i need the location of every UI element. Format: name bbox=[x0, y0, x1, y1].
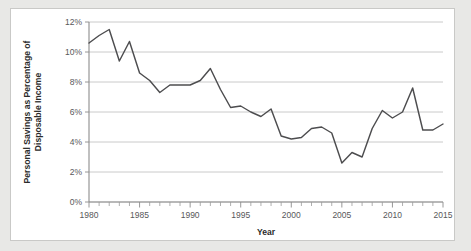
x-tick-labels-group: 19801985199019952000200520102015 bbox=[80, 210, 453, 220]
y-tick-label-10: 10% bbox=[65, 47, 82, 57]
savings-rate-line bbox=[89, 30, 443, 164]
chart-panel: 0%2%4%6%8%10%12% 19801985199019952000200… bbox=[10, 8, 455, 241]
x-tick-label-1985: 1985 bbox=[130, 210, 149, 220]
x-tick-label-2000: 2000 bbox=[282, 210, 301, 220]
x-tick-label-1990: 1990 bbox=[181, 210, 200, 220]
x-tick-label-2015: 2015 bbox=[434, 210, 453, 220]
x-tick-label-1980: 1980 bbox=[80, 210, 99, 220]
y-tick-label-2: 2% bbox=[70, 167, 83, 177]
line-chart: 0%2%4%6%8%10%12% 19801985199019952000200… bbox=[11, 9, 456, 242]
y-tick-labels-group: 0%2%4%6%8%10%12% bbox=[65, 17, 89, 207]
x-tick-label-1995: 1995 bbox=[231, 210, 250, 220]
y-axis-title-line1: Personal Savings as Percentage of bbox=[22, 40, 32, 183]
y-tick-label-4: 4% bbox=[70, 137, 83, 147]
x-tick-label-2005: 2005 bbox=[332, 210, 351, 220]
y-axis-title-line2: Disposable Income bbox=[33, 73, 43, 152]
x-tick-label-2010: 2010 bbox=[383, 210, 402, 220]
figure-root: 0%2%4%6%8%10%12% 19801985199019952000200… bbox=[0, 0, 471, 251]
y-tick-label-8: 8% bbox=[70, 77, 83, 87]
y-tick-label-6: 6% bbox=[70, 107, 83, 117]
y-tick-label-0: 0% bbox=[70, 197, 83, 207]
y-tick-label-12: 12% bbox=[65, 17, 82, 27]
x-minor-ticks-group bbox=[89, 202, 443, 208]
x-axis-title: Year bbox=[257, 227, 276, 237]
